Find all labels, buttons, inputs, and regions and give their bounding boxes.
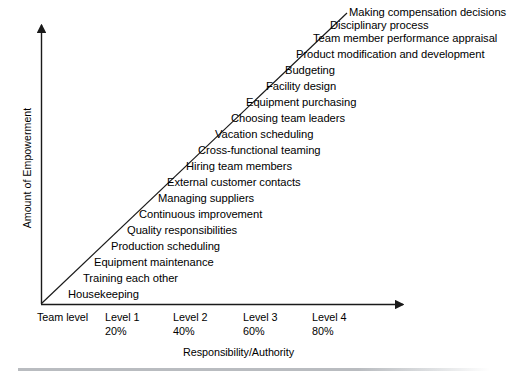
step-label: Quality responsibilities xyxy=(127,224,237,237)
x-tick-level-4-percent: 80% xyxy=(312,325,346,339)
x-tick-level-2-label: Level 2 xyxy=(173,311,207,323)
x-tick-level-1-percent: 20% xyxy=(105,325,139,339)
x-tick-level-4: Level 4 80% xyxy=(312,311,346,338)
x-tick-level-3-label: Level 3 xyxy=(243,311,277,323)
step-label: Equipment maintenance xyxy=(94,256,214,269)
step-label: Managing suppliers xyxy=(158,192,254,205)
step-label: Equipment purchasing xyxy=(246,96,356,109)
y-axis-label: Amount of Empowerment xyxy=(21,78,33,258)
step-label: Facility design xyxy=(266,80,336,93)
x-tick-level-4-label: Level 4 xyxy=(312,311,346,323)
step-label: Training each other xyxy=(83,272,178,285)
x-tick-level-1-label: Level 1 xyxy=(105,311,139,323)
figure-canvas: Amount of Empowerment Housekeeping Train… xyxy=(0,0,520,377)
step-label: Cross-functional teaming xyxy=(198,144,321,157)
x-tick-team-level: Team level xyxy=(37,311,88,323)
step-label: Vacation scheduling xyxy=(215,128,313,141)
step-label: Product modification and development xyxy=(296,48,485,61)
x-tick-level-1: Level 1 20% xyxy=(105,311,139,338)
step-label: Budgeting xyxy=(285,64,335,77)
step-label: Continuous improvement xyxy=(139,208,262,221)
step-label: Hiring team members xyxy=(186,160,292,173)
step-label: Production scheduling xyxy=(111,240,220,253)
x-tick-level-3: Level 3 60% xyxy=(243,311,277,338)
step-label: Choosing team leaders xyxy=(231,112,345,125)
step-label: Disciplinary process xyxy=(330,19,428,32)
x-tick-level-3-percent: 60% xyxy=(243,325,277,339)
step-label: Housekeeping xyxy=(68,288,139,301)
x-axis-label: Responsibility/Authority xyxy=(183,346,294,358)
x-tick-level-2: Level 2 40% xyxy=(173,311,207,338)
footer-divider xyxy=(18,368,490,371)
step-label: External customer contacts xyxy=(167,176,301,189)
x-tick-level-2-percent: 40% xyxy=(173,325,207,339)
step-label: Making compensation decisions xyxy=(349,6,506,19)
step-label: Team member performance appraisal xyxy=(313,32,497,45)
